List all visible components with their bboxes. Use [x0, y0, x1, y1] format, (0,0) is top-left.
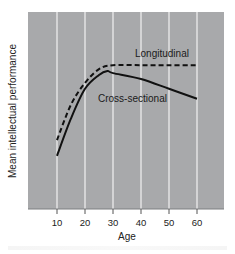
page-bleed-through: [8, 246, 227, 250]
x-tick-label: 20: [80, 217, 91, 228]
x-tick-label: 50: [164, 217, 175, 228]
x-tick-label: 40: [136, 217, 147, 228]
line-chart: 102030405060 Longitudinal Cross-sectiona…: [0, 0, 235, 254]
x-axis-title: Age: [118, 231, 136, 242]
x-tick-label: 30: [108, 217, 119, 228]
x-tick-label: 60: [192, 217, 203, 228]
cross-sectional-label: Cross-sectional: [98, 93, 167, 104]
x-axis-ticks: 102030405060: [52, 209, 203, 228]
y-axis-title: Mean intellectual performance: [7, 44, 18, 178]
x-tick-label: 10: [52, 217, 63, 228]
longitudinal-label: Longitudinal: [135, 48, 189, 59]
